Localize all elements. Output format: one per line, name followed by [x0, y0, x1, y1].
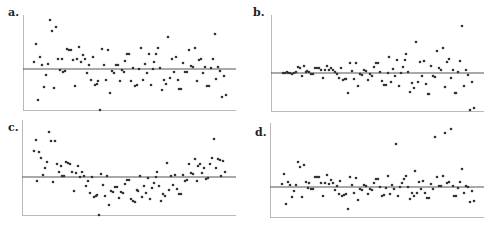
data-point	[214, 33, 217, 36]
data-point	[455, 195, 458, 198]
data-point	[203, 167, 206, 170]
data-point	[471, 190, 474, 193]
data-point	[215, 78, 218, 81]
data-point	[63, 175, 66, 178]
data-point	[50, 140, 53, 143]
data-point	[307, 187, 310, 190]
data-point	[149, 198, 152, 201]
data-point	[404, 59, 407, 62]
data-point	[80, 61, 83, 64]
data-point	[139, 175, 142, 178]
data-point	[219, 70, 222, 73]
data-point	[345, 78, 348, 81]
data-point	[112, 191, 115, 194]
data-point	[52, 181, 55, 184]
data-point	[121, 69, 124, 72]
data-point	[172, 184, 175, 187]
data-point	[150, 84, 153, 87]
data-point	[448, 181, 451, 184]
data-point	[102, 184, 105, 187]
data-point	[54, 140, 57, 143]
data-point	[425, 83, 428, 86]
data-point	[361, 74, 364, 77]
data-point	[461, 25, 464, 28]
data-point	[64, 70, 67, 73]
data-point	[111, 70, 114, 73]
data-point	[318, 67, 321, 70]
data-point	[281, 183, 284, 186]
data-point	[155, 53, 158, 56]
data-point	[162, 193, 165, 196]
data-point	[49, 19, 52, 22]
data-point	[33, 61, 36, 64]
data-point	[396, 59, 399, 62]
data-point	[457, 187, 460, 190]
data-point	[153, 61, 156, 64]
panel-a-points	[33, 19, 228, 112]
panel-b-points	[282, 25, 476, 112]
data-point	[222, 160, 225, 163]
data-point	[385, 84, 388, 87]
data-point	[105, 79, 108, 82]
data-point	[308, 182, 311, 185]
data-point	[201, 172, 204, 175]
data-point	[192, 173, 195, 176]
data-point	[188, 49, 191, 52]
data-point	[44, 167, 47, 170]
data-point	[369, 73, 372, 76]
data-point	[367, 193, 370, 196]
data-point	[442, 47, 445, 50]
data-point	[108, 204, 111, 207]
panel-d-label: d.	[255, 126, 267, 139]
data-point	[469, 109, 472, 112]
data-point	[303, 164, 306, 167]
data-point	[424, 192, 427, 195]
data-point	[448, 58, 451, 61]
data-point	[361, 189, 364, 192]
data-point	[403, 178, 406, 181]
data-point	[387, 72, 390, 75]
data-point	[128, 53, 131, 56]
data-point	[56, 163, 59, 166]
data-point	[409, 198, 412, 201]
data-point	[176, 188, 179, 191]
data-point	[104, 195, 107, 198]
data-point	[55, 26, 58, 29]
data-point	[405, 53, 408, 56]
panel-c-points	[33, 131, 227, 217]
data-point	[402, 66, 405, 69]
data-point	[377, 62, 380, 65]
data-point	[320, 69, 323, 72]
data-point	[328, 183, 331, 186]
data-point	[202, 72, 205, 75]
data-point	[407, 71, 410, 74]
data-point	[168, 189, 171, 192]
data-point	[444, 86, 447, 89]
data-point	[442, 175, 445, 178]
data-point	[430, 65, 433, 68]
data-point	[473, 200, 476, 203]
data-point	[452, 69, 455, 72]
data-point	[148, 53, 151, 56]
data-point	[371, 75, 374, 78]
data-point	[57, 58, 60, 61]
data-point	[79, 176, 82, 179]
data-point	[219, 159, 222, 162]
data-point	[165, 83, 168, 86]
data-point	[455, 92, 458, 95]
data-point	[159, 67, 162, 70]
data-point	[91, 176, 94, 179]
data-point	[123, 71, 126, 74]
data-point	[415, 41, 418, 44]
data-point	[137, 190, 140, 193]
residual-plots-figure: a. b. c. d.	[0, 0, 488, 228]
data-point	[224, 171, 227, 174]
data-point	[405, 175, 408, 178]
data-point	[467, 186, 470, 189]
data-point	[299, 67, 302, 70]
data-point	[430, 183, 433, 186]
data-point	[365, 70, 368, 73]
data-point	[407, 186, 410, 189]
data-point	[367, 79, 370, 82]
data-point	[287, 181, 290, 184]
